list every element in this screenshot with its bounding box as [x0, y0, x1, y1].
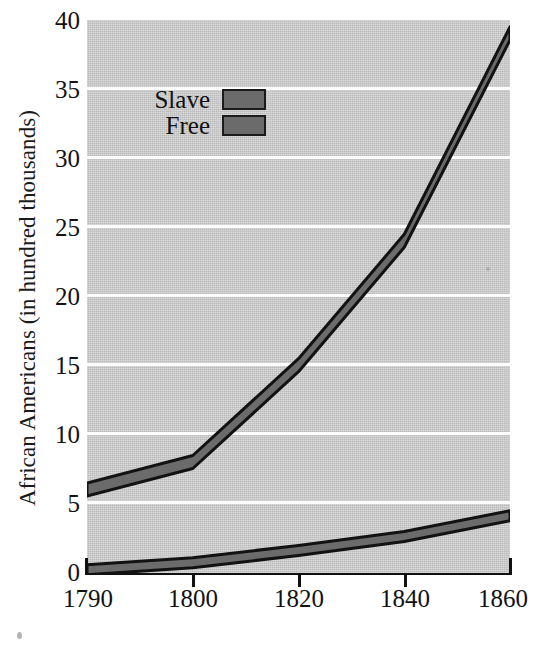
x-axis-tick-labels: 1790 1800 1820 1840 1860 — [0, 586, 534, 620]
x-axis-right-cap — [509, 558, 512, 575]
legend: Slave Free — [136, 86, 266, 138]
legend-item-slave: Slave — [136, 86, 266, 112]
legend-item-free: Free — [136, 112, 266, 138]
y-tick-label-30: 30 — [32, 146, 80, 171]
y-tick-label-40: 40 — [32, 8, 80, 33]
y-axis-tick-labels: 40 35 30 25 20 15 10 5 0 — [24, 0, 80, 650]
y-tick-label-25: 25 — [32, 215, 80, 240]
x-tick-label-1800: 1800 — [148, 586, 238, 611]
x-tick-label-1840: 1840 — [360, 586, 450, 611]
legend-swatch-slave — [222, 89, 266, 110]
legend-label-slave: Slave — [154, 87, 210, 112]
legend-label-free: Free — [166, 113, 210, 138]
scan-speck — [486, 267, 490, 271]
y-tick-label-0: 0 — [32, 560, 80, 585]
legend-swatch-free — [222, 115, 266, 136]
chart-figure: African Americans (in hundred thousands)… — [0, 0, 534, 650]
series-band-free — [87, 511, 510, 573]
x-tick-label-1820: 1820 — [254, 586, 344, 611]
y-tick-label-10: 10 — [32, 422, 80, 447]
x-axis-left-cap — [85, 558, 88, 575]
x-tick-label-1860: 1860 — [458, 586, 534, 611]
y-tick-label-15: 15 — [32, 353, 80, 378]
y-tick-label-5: 5 — [32, 491, 80, 516]
x-tick-label-1790: 1790 — [43, 586, 133, 611]
y-tick-label-35: 35 — [32, 77, 80, 102]
scan-speck-corner — [17, 632, 22, 639]
y-tick-label-20: 20 — [32, 284, 80, 309]
